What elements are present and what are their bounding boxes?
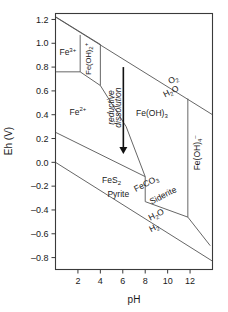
- x-tick-label: 6: [120, 276, 125, 286]
- species-label-siderite: Siderite: [148, 184, 178, 206]
- y-tick-label: 0.4: [36, 110, 49, 120]
- x-axis-title: pH: [128, 294, 141, 305]
- species-labels: Fe3+Fe(OH)2+Fe2+Fe(OH)3Fe(OH)4–FeS2Pyrit…: [59, 42, 203, 235]
- arrow-head: [119, 147, 127, 154]
- phase-boundary: [56, 133, 145, 177]
- y-tick-label: –0.4: [31, 205, 49, 215]
- y-tick-label: –0.8: [31, 253, 49, 263]
- species-label-fe-oh-4-minus: Fe(OH)4–: [192, 135, 203, 171]
- species-label-h2o-upper: H2O: [161, 83, 181, 100]
- y-tick-label: 0.8: [36, 62, 49, 72]
- y-tick-label: –0.2: [31, 181, 49, 191]
- x-tick-label: 4: [98, 276, 103, 286]
- y-tick-label: 1.2: [36, 15, 49, 25]
- y-tick-label: 0.2: [36, 134, 49, 144]
- process-annotations: reductivedissolution: [106, 87, 123, 127]
- x-axis-ticks: 24681012: [75, 270, 195, 286]
- y-axis-title: Eh (V): [3, 127, 14, 155]
- species-label-fe3: Fe3+: [59, 47, 76, 58]
- y-axis-ticks: 1.21.00.80.60.40.20.0–0.2–0.4–0.6–0.8: [31, 15, 56, 263]
- species-label-h2o-lower: H2O: [147, 206, 167, 223]
- y-tick-label: –0.6: [31, 229, 49, 239]
- y-tick-label: 0.0: [36, 158, 49, 168]
- species-label-feco3: FeCO3: [132, 173, 161, 195]
- species-label-pyrite: Pyrite: [107, 189, 129, 199]
- y-tick-label: 1.0: [36, 38, 49, 48]
- phase-boundary: [126, 127, 145, 177]
- x-tick-label: 12: [185, 276, 195, 286]
- phase-boundary: [56, 162, 213, 261]
- plot-boundaries: [56, 17, 213, 261]
- phase-boundary: [56, 17, 100, 44]
- pourbaix-chart-svg: 1.21.00.80.60.40.20.0–0.2–0.4–0.6–0.8 24…: [0, 0, 228, 312]
- species-label-fe2: Fe2+: [70, 106, 87, 117]
- x-tick-label: 8: [143, 276, 148, 286]
- y-tick-label: 0.6: [36, 86, 49, 96]
- eh-ph-diagram-figure: 1.21.00.80.60.40.20.0–0.2–0.4–0.6–0.8 24…: [0, 0, 228, 312]
- species-label-fe-oh-3: Fe(OH)3: [136, 108, 168, 119]
- plot-frame: [56, 14, 213, 270]
- species-label-h2-lower: H2: [147, 221, 161, 235]
- x-tick-label: 10: [163, 276, 173, 286]
- annotation-dissolution: dissolution: [113, 87, 123, 127]
- species-label-fe-oh-2-plus: Fe(OH)2+: [83, 42, 94, 74]
- species-label-fes2: FeS2: [102, 175, 122, 186]
- x-tick-label: 2: [75, 276, 80, 286]
